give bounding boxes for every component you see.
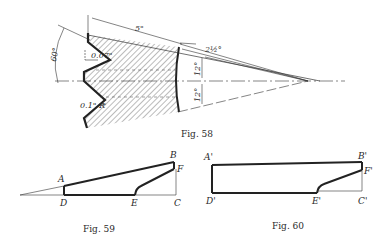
point-C: C [174,198,181,208]
dim-root-radius: 0.1" R [80,101,105,110]
fig60-caption: Fig. 60 [272,221,304,231]
figure-58: 5" 60° 0.07" 0.1" R 2½° 12° 12° Fig. 58 [49,15,345,139]
point-B: B [169,150,177,160]
dim-small-angle: 2½° [204,45,222,54]
dim-thread-angle: 60° [49,47,60,63]
point-D-prime: D' [205,196,216,206]
point-D: D [59,198,67,208]
point-B-prime: B' [357,151,367,161]
fig58-caption: Fig. 58 [181,129,213,139]
point-F-prime: F' [363,166,373,176]
fig59-caption: Fig. 59 [83,224,115,234]
edge-EF [135,169,174,195]
edge-AB [64,162,174,186]
point-A: A [57,174,65,184]
figure-59: A B C D E F Fig. 59 [20,150,184,234]
point-C-prime: C' [358,196,367,206]
point-E-prime: E' [311,196,321,206]
edge-EF-prime [317,170,362,193]
diagram-canvas: 5" 60° 0.07" 0.1" R 2½° 12° 12° Fig. 58 [0,0,389,242]
point-A-prime: A' [203,152,213,162]
dim-lower-angle: 12° [193,88,202,102]
point-E: E [130,198,138,208]
dim-pitch-offset: 0.07" [91,51,113,60]
figure-60: A' B' C' D' E' F' Fig. 60 [203,151,373,231]
edge-AB-prime [212,162,362,165]
point-F: F [176,164,184,174]
dim-upper-angle: 12° [193,62,202,76]
dim-length: 5" [135,24,144,33]
